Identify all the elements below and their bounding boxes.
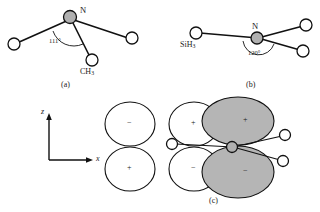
panel-a-angle-label: 111° — [49, 38, 61, 45]
bond-a-left — [17, 19, 71, 43]
panel-a-substituent-label: CH3 — [80, 68, 94, 77]
orbital-sign-mid-bottom: − — [191, 164, 196, 172]
panel-a-structure — [8, 11, 138, 67]
panel-a-substituent-subscript: 3 — [91, 70, 94, 76]
axis-z-label: z — [41, 108, 44, 116]
panel-b-caption: (b) — [246, 81, 255, 89]
atom-c-left — [167, 139, 178, 150]
panel-c-orbitals — [105, 97, 291, 198]
atom-b-upper-right — [300, 19, 312, 31]
orbital-sign-left-top: − — [127, 119, 132, 127]
orbital-sign-left-bottom: + — [127, 164, 132, 172]
panel-a-nitrogen-label: N — [80, 6, 86, 15]
orbital-right-top — [202, 97, 274, 145]
panel-b-substituent-text: SiH — [180, 40, 192, 49]
panel-a-caption: (a) — [61, 81, 70, 89]
bond-b-left — [200, 33, 258, 38]
atom-a-left — [8, 38, 20, 50]
figure-canvas: .bond{stroke:#111111;stroke-width:1.6;st… — [0, 0, 320, 212]
panel-b-substituent-subscript: 3 — [192, 43, 195, 49]
axis-x-label: x — [96, 155, 100, 163]
atom-b-silyl — [190, 27, 202, 39]
atom-c-nitrogen — [227, 142, 238, 153]
orbital-right-bottom — [202, 146, 274, 198]
panel-b-angle-label: 120° — [248, 50, 260, 57]
panel-c-caption: (c) — [209, 197, 218, 205]
bond-b-upper-right — [258, 26, 303, 38]
panel-b-substituent-label: SiH3 — [180, 41, 195, 50]
bond-b-lower-right — [258, 38, 300, 50]
axis-x-arrowhead — [86, 157, 93, 163]
atom-c-lower-right — [278, 156, 289, 167]
atom-b-lower-right — [297, 45, 309, 57]
orbital-sign-mid-top: + — [191, 119, 196, 127]
axis-indicator — [46, 113, 93, 163]
panel-a-substituent-text: CH — [80, 67, 91, 76]
atom-a-methyl — [86, 54, 98, 66]
orbital-sign-right-bottom: − — [243, 167, 248, 175]
axis-z-arrowhead — [46, 113, 52, 120]
atom-a-nitrogen — [64, 11, 77, 24]
atom-a-right — [126, 32, 138, 44]
atom-b-nitrogen — [251, 32, 263, 44]
atom-c-upper-right — [280, 130, 291, 141]
panel-b-nitrogen-label: N — [252, 22, 258, 31]
orbital-sign-right-top: + — [243, 116, 248, 124]
